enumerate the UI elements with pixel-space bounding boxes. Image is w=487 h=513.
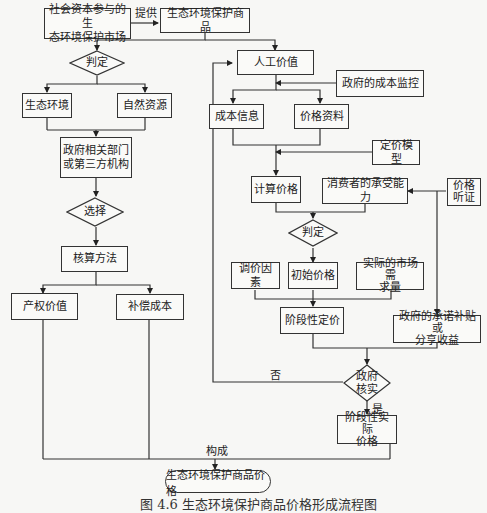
node-calculate-price: 计算价格	[251, 176, 301, 203]
decision-label: 政府	[356, 370, 378, 383]
node-label: 生态环境	[25, 99, 69, 113]
node-label: 阶段性实际	[340, 412, 394, 436]
node-label: 人工价值	[254, 56, 298, 70]
node-eco-environment: 生态环境	[22, 93, 72, 118]
terminal-eco-goods-price: 生态环境保护商品价格	[165, 470, 271, 493]
node-gov-subsidy-or-revenue-share: 政府的承诺补贴或 分享收益	[393, 315, 481, 343]
node-label: 实际的市场需	[359, 258, 421, 282]
node-staged-pricing: 阶段性定价	[280, 307, 344, 334]
node-initial-price: 初始价格	[288, 262, 338, 289]
edge-label-provide: 提供	[135, 8, 157, 20]
node-label: 产权价值	[23, 300, 67, 314]
node-label: 初始价格	[291, 269, 335, 283]
node-label: 听证	[453, 192, 475, 204]
node-label: 阶段性定价	[285, 314, 340, 328]
node-gov-dept-or-third-party: 政府相关部门 或第三方机构	[60, 137, 132, 178]
decision-judge-1: 判定	[69, 50, 125, 76]
node-price-hearing: 价格 听证	[447, 178, 481, 206]
edge-label-no: 否	[270, 370, 281, 382]
node-cost-info: 成本信息	[209, 104, 264, 129]
node-label: 核算方法	[73, 252, 117, 266]
decision-choose: 选择	[66, 197, 124, 227]
figure-caption: 图 4.6 生态环境保护商品价格形成流程图	[140, 494, 377, 513]
node-label: 生态环境保护商品	[163, 7, 247, 35]
node-label: 政府的承诺补贴或	[396, 311, 478, 335]
edge-label-compose: 构成	[206, 446, 228, 458]
decision-gov-verify: 政府 核实	[343, 364, 391, 402]
node-label: 政府的成本监控	[342, 77, 419, 91]
node-label: 价格资料	[300, 110, 344, 124]
node-gov-cost-monitoring: 政府的成本监控	[336, 70, 424, 97]
node-label: 消费者的承受能力	[325, 177, 405, 205]
node-labor-value: 人工价值	[237, 50, 314, 75]
node-label: 社会资本参与的生	[47, 3, 128, 31]
node-label: 补偿成本	[128, 300, 172, 314]
node-pricing-model: 定价模型	[372, 140, 420, 165]
node-label: 生态环境保护商品价格	[166, 466, 270, 498]
node-price-data: 价格资料	[294, 104, 349, 129]
node-price-adjustment-factors: 调价因素	[231, 262, 280, 289]
decision-label: 选择	[84, 205, 106, 219]
node-label: 或第三方机构	[63, 158, 129, 172]
node-property-value: 产权价值	[11, 293, 78, 320]
node-label: 分享收益	[415, 335, 459, 347]
node-social-capital-market: 社会资本参与的生 态环境保护市场	[44, 8, 131, 39]
node-label: 价格	[356, 436, 378, 448]
decision-label: 判定	[86, 56, 108, 70]
decision-label: 核实	[356, 383, 378, 396]
node-label: 计算价格	[254, 183, 298, 197]
node-label: 求量	[379, 282, 401, 294]
node-label: 政府相关部门	[63, 144, 129, 158]
node-staged-actual-price: 阶段性实际 价格	[337, 415, 397, 444]
node-label: 成本信息	[215, 110, 259, 124]
node-consumer-affordability: 消费者的承受能力	[322, 178, 408, 204]
decision-label: 判定	[302, 226, 324, 240]
decision-judge-2: 判定	[288, 219, 338, 247]
node-natural-resources: 自然资源	[117, 93, 172, 118]
node-label: 调价因素	[234, 262, 277, 290]
node-accounting-method: 核算方法	[61, 246, 128, 272]
node-label: 自然资源	[123, 99, 167, 113]
node-actual-market-demand: 实际的市场需 求量	[356, 262, 424, 290]
node-label: 定价模型	[375, 139, 417, 167]
node-eco-protection-goods: 生态环境保护商品	[160, 8, 250, 33]
node-label: 态环境保护市场	[49, 31, 126, 45]
node-compensation-cost: 补偿成本	[116, 294, 184, 320]
